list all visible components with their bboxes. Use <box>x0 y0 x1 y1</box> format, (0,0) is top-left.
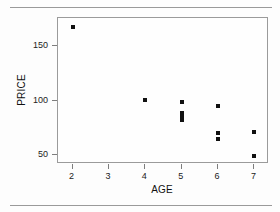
x-axis-tick-label: 4 <box>142 171 147 181</box>
x-axis-tick-label: 6 <box>215 171 220 181</box>
data-point <box>252 154 256 158</box>
data-point <box>216 131 220 135</box>
x-axis-tick <box>144 164 145 169</box>
x-axis-tick-label: 5 <box>178 171 183 181</box>
x-axis-tick <box>72 164 73 169</box>
data-point <box>180 100 184 104</box>
y-axis-title: PRICE <box>16 74 27 106</box>
figure-top-rule <box>10 7 272 8</box>
data-point <box>143 98 147 102</box>
plot-area <box>57 17 268 163</box>
figure-bottom-rule <box>10 205 272 206</box>
x-axis-tick <box>181 164 182 169</box>
x-axis-tick <box>217 164 218 169</box>
x-axis-tick-label: 2 <box>69 171 74 181</box>
data-point <box>252 130 256 134</box>
y-axis-tick-label: 50 <box>38 149 48 159</box>
data-point <box>216 137 220 141</box>
x-axis-tick <box>253 164 254 169</box>
scatter-plot-figure: 50100150 234567 PRICE AGE <box>0 0 280 212</box>
x-axis-tick-label: 7 <box>251 171 256 181</box>
data-point <box>216 104 220 108</box>
data-point <box>71 25 75 29</box>
y-axis-tick-label: 150 <box>33 40 48 50</box>
data-point <box>180 118 184 122</box>
y-axis-tick-label: 100 <box>33 95 48 105</box>
x-axis-title: AGE <box>151 184 173 195</box>
x-axis-tick-label: 3 <box>105 171 110 181</box>
x-axis-tick <box>108 164 109 169</box>
